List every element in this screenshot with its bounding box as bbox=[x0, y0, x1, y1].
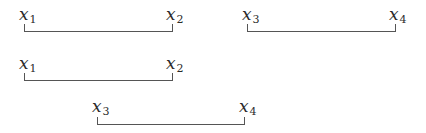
label-x4: x4 bbox=[239, 98, 257, 117]
interval-bracket bbox=[247, 24, 396, 32]
label-var: x bbox=[166, 53, 176, 73]
label-var: x bbox=[389, 4, 399, 24]
label-subscript: 2 bbox=[177, 13, 184, 26]
label-x2: x2 bbox=[166, 55, 184, 74]
label-x2: x2 bbox=[166, 6, 184, 25]
label-var: x bbox=[92, 96, 102, 116]
label-x3: x3 bbox=[242, 6, 260, 25]
label-var: x bbox=[19, 53, 29, 73]
label-var: x bbox=[242, 4, 252, 24]
interval-diagram: x1 x2 x3 x4 x1 x2 x3 x4 bbox=[0, 0, 426, 133]
interval-bracket bbox=[24, 24, 173, 32]
label-var: x bbox=[166, 4, 176, 24]
label-var: x bbox=[239, 96, 249, 116]
label-subscript: 4 bbox=[250, 105, 257, 118]
interval-bracket bbox=[24, 73, 173, 81]
label-x3: x3 bbox=[92, 98, 110, 117]
label-x4: x4 bbox=[389, 6, 407, 25]
interval-bracket bbox=[97, 117, 245, 125]
label-x1: x1 bbox=[19, 55, 37, 74]
label-var: x bbox=[19, 4, 29, 24]
label-subscript: 4 bbox=[400, 13, 407, 26]
label-subscript: 2 bbox=[177, 62, 184, 75]
label-x1: x1 bbox=[19, 6, 37, 25]
